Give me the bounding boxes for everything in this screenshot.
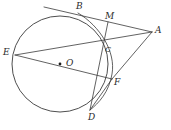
- point-label-B: B: [76, 2, 83, 11]
- point-label-F: F: [114, 78, 120, 87]
- geometry-figure: A B C D E F M O: [0, 0, 171, 130]
- geometry-canvas: [0, 0, 171, 130]
- point-label-A: A: [155, 26, 162, 35]
- tangent-line-b-a: [44, 7, 152, 32]
- arc-bcfd: [78, 13, 113, 110]
- point-label-C: C: [105, 46, 111, 54]
- point-label-E: E: [3, 48, 10, 57]
- point-label-O: O: [66, 59, 73, 68]
- line-a-f: [112, 32, 152, 79]
- point-label-D: D: [88, 113, 95, 122]
- point-label-M: M: [105, 12, 114, 21]
- line-e-a: [15, 32, 152, 55]
- center-dot: [59, 63, 62, 66]
